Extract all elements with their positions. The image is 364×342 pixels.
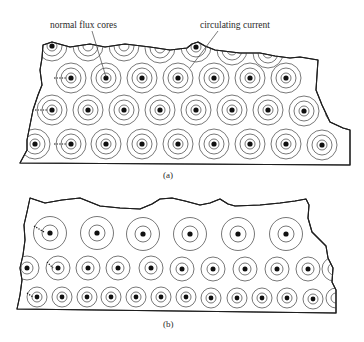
normal-flux-core <box>68 141 73 146</box>
normal-flux-core <box>139 141 144 146</box>
normal-flux-core <box>109 295 114 300</box>
normal-flux-core <box>265 107 270 112</box>
normal-flux-core <box>209 296 214 301</box>
normal-flux-core <box>275 267 280 272</box>
normal-flux-core <box>32 141 37 146</box>
panel-b-outline <box>17 198 336 313</box>
partial-ring <box>325 63 355 93</box>
normal-flux-core <box>134 295 139 300</box>
label-circulating-current: circulating current <box>200 20 270 30</box>
normal-flux-core <box>139 75 144 80</box>
partial-ring <box>330 68 350 88</box>
label-normal-flux-cores: normal flux cores <box>50 20 117 30</box>
normal-flux-core <box>47 230 52 235</box>
partial-ring <box>335 105 345 115</box>
normal-flux-core <box>260 296 265 301</box>
normal-flux-core <box>283 75 288 80</box>
normal-flux-core <box>180 267 185 272</box>
normal-flux-core <box>247 75 252 80</box>
normal-flux-core <box>49 107 54 112</box>
normal-flux-core <box>193 44 198 49</box>
normal-flux-core <box>56 266 61 271</box>
normal-flux-core <box>25 266 30 271</box>
normal-flux-core <box>247 141 252 146</box>
normal-flux-core <box>121 107 126 112</box>
normal-flux-core <box>193 107 198 112</box>
normal-flux-core <box>68 75 73 80</box>
normal-flux-core <box>103 141 108 146</box>
normal-flux-core <box>243 267 248 272</box>
normal-flux-core <box>184 295 189 300</box>
panel-a <box>20 31 355 165</box>
normal-flux-core <box>211 75 216 80</box>
panel-b <box>15 198 346 313</box>
normal-flux-core <box>175 141 180 146</box>
normal-flux-core <box>306 267 311 272</box>
normal-flux-core <box>211 267 216 272</box>
normal-flux-core <box>94 230 99 235</box>
normal-flux-core <box>116 266 121 271</box>
normal-flux-core <box>285 296 290 301</box>
normal-flux-core <box>311 297 316 302</box>
partial-ring <box>335 73 345 83</box>
normal-flux-core <box>49 43 54 48</box>
normal-flux-core <box>319 142 324 147</box>
normal-flux-core <box>85 295 90 300</box>
partial-ring <box>330 100 350 120</box>
normal-flux-core <box>283 141 288 146</box>
caption-a: (a) <box>163 170 173 180</box>
normal-flux-core <box>211 141 216 146</box>
normal-flux-core <box>187 231 192 236</box>
normal-flux-core <box>159 295 164 300</box>
normal-flux-core <box>283 231 288 236</box>
normal-flux-core <box>35 295 40 300</box>
normal-flux-core <box>157 107 162 112</box>
normal-flux-core <box>149 266 154 271</box>
caption-b: (b) <box>163 319 174 329</box>
normal-flux-core <box>86 266 91 271</box>
normal-flux-core <box>140 231 145 236</box>
flux-lattice-figure: normal flux cores circulating current (a… <box>0 0 364 342</box>
normal-flux-core <box>175 75 180 80</box>
normal-flux-core <box>235 296 240 301</box>
normal-flux-core <box>60 295 65 300</box>
normal-flux-core <box>85 107 90 112</box>
normal-flux-core <box>229 107 234 112</box>
normal-flux-core <box>235 231 240 236</box>
normal-flux-core <box>301 108 306 113</box>
